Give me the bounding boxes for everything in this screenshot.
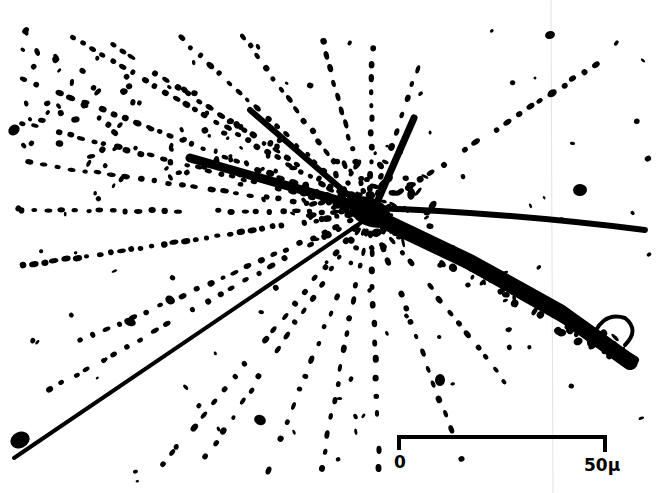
track-grain (134, 209, 142, 214)
track-grain (71, 208, 77, 212)
track-grain (292, 208, 301, 213)
track-grain (148, 207, 155, 213)
scale-bar-start-label: 0 (394, 452, 406, 472)
track-grain (95, 208, 103, 213)
track-grain (110, 208, 117, 213)
track-grain (267, 209, 272, 215)
emulsion-micrograph: 0 50μ (0, 0, 662, 493)
track-grain (280, 208, 287, 214)
track-grain (242, 209, 249, 213)
track-grain (31, 208, 37, 212)
track-grain (44, 208, 52, 212)
track-grain (122, 208, 127, 214)
track-grain (57, 207, 65, 212)
track-grain (161, 208, 167, 214)
track-grain (174, 210, 182, 214)
scale-bar-end-label: 50μ (584, 455, 620, 475)
track-grain (319, 210, 325, 216)
background-grain (319, 216, 325, 222)
track-grain (227, 209, 234, 215)
track-grain (86, 209, 91, 213)
track-grain (253, 209, 259, 215)
track-grain (215, 208, 221, 213)
background-grain (337, 397, 343, 400)
